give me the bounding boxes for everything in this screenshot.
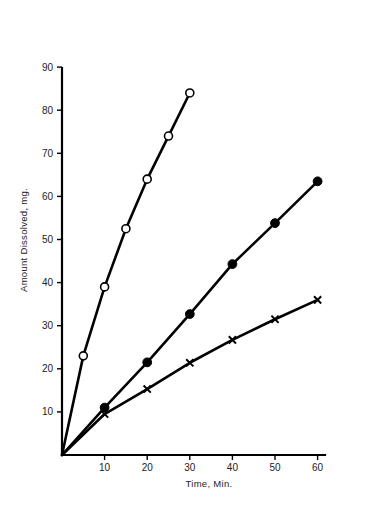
y-tick-label: 20: [42, 363, 54, 374]
chart-background: [0, 0, 369, 506]
y-tick-label: 80: [42, 105, 54, 116]
x-axis-title: Time, Min.: [186, 478, 233, 489]
y-tick-label: 60: [42, 191, 54, 202]
x-tick-label: 50: [269, 462, 281, 473]
open-circle-marker: [143, 175, 151, 183]
open-circle-marker: [101, 283, 109, 291]
line-chart-canvas: 102030405060708090 102030405060 Time, Mi…: [0, 0, 369, 506]
y-axis-title: Amount Dissolved, mg.: [18, 188, 29, 292]
open-circle-marker: [79, 352, 87, 360]
y-tick-label: 30: [42, 320, 54, 331]
filled-circle-marker: [185, 310, 194, 319]
open-circle-marker: [165, 132, 173, 140]
chart-figure: 102030405060708090 102030405060 Time, Mi…: [0, 0, 369, 506]
y-tick-label: 40: [42, 277, 54, 288]
open-circle-marker: [122, 225, 130, 233]
x-tick-label: 10: [99, 462, 111, 473]
y-tick-label: 90: [42, 62, 54, 73]
filled-circle-marker: [313, 177, 322, 186]
x-tick-label: 60: [312, 462, 324, 473]
x-tick-label: 40: [227, 462, 239, 473]
open-circle-marker: [186, 89, 194, 97]
y-tick-label: 50: [42, 234, 54, 245]
filled-circle-marker: [143, 358, 152, 367]
x-tick-label: 20: [142, 462, 154, 473]
filled-circle-marker: [271, 219, 280, 228]
y-tick-label: 70: [42, 148, 54, 159]
x-tick-label: 30: [184, 462, 196, 473]
y-tick-label: 10: [42, 406, 54, 417]
filled-circle-marker: [228, 260, 237, 269]
